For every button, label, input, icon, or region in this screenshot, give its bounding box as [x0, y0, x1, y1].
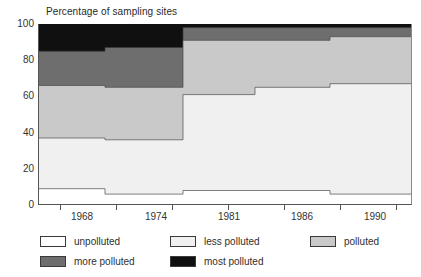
x-axis-label-1986: 1986 — [280, 211, 324, 222]
legend-label-most-polluted: most polluted — [204, 256, 263, 267]
legend-label-more-polluted: more polluted — [74, 256, 135, 267]
x-tick-6 — [396, 205, 397, 210]
legend-label-polluted: polluted — [344, 236, 379, 247]
x-axis-label-1974: 1974 — [134, 211, 178, 222]
x-tick-3 — [228, 205, 229, 210]
legend-item-most-polluted: most polluted — [170, 256, 310, 267]
x-axis-label-1968: 1968 — [60, 211, 104, 222]
legend-swatch-unpolluted — [40, 236, 66, 247]
legend-swatch-most-polluted — [170, 256, 196, 267]
x-axis-label-1981: 1981 — [207, 211, 251, 222]
legend-row-2: more polluted most polluted — [40, 256, 420, 267]
x-axis-label-1990: 1990 — [353, 211, 397, 222]
y-axis-label-100: 100 — [4, 18, 34, 29]
x-tick-1 — [116, 205, 117, 210]
y-axis-label-80: 80 — [4, 54, 34, 65]
y-axis-label-40: 40 — [4, 127, 34, 138]
legend-item-unpolluted: unpolluted — [40, 236, 170, 247]
plot-area — [38, 24, 412, 205]
legend-item-polluted: polluted — [310, 236, 379, 247]
x-tick-2 — [172, 205, 173, 210]
chart-title: Percentage of sampling sites — [46, 6, 177, 17]
y-axis-label-60: 60 — [4, 90, 34, 101]
x-tick-5 — [340, 205, 341, 210]
legend-swatch-less-polluted — [170, 236, 196, 247]
legend-swatch-more-polluted — [40, 256, 66, 267]
legend-label-less-polluted: less polluted — [204, 236, 260, 247]
chart-legend: unpolluted less polluted polluted more p… — [40, 236, 420, 276]
legend-swatch-polluted — [310, 236, 336, 247]
y-axis-label-20: 20 — [4, 163, 34, 174]
x-tick-0 — [60, 205, 61, 210]
x-tick-4 — [284, 205, 285, 210]
y-axis-label-0: 0 — [4, 199, 34, 210]
legend-row-1: unpolluted less polluted polluted — [40, 236, 420, 247]
stacked-area-layers — [38, 24, 412, 205]
legend-label-unpolluted: unpolluted — [74, 236, 120, 247]
chart-root: Percentage of sampling sites 100 80 60 4… — [0, 0, 421, 277]
legend-item-more-polluted: more polluted — [40, 256, 170, 267]
legend-item-less-polluted: less polluted — [170, 236, 310, 247]
